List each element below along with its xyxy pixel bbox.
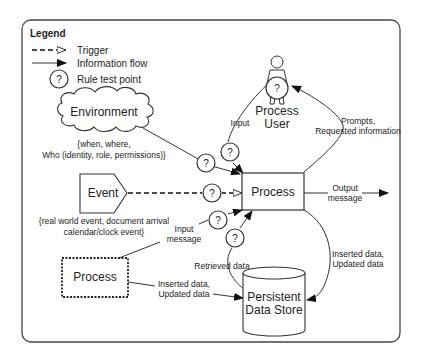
svg-text:?: ?: [215, 215, 221, 226]
process-external-node: Process: [62, 258, 128, 297]
event-note-line1: {real world event, document arrival: [39, 216, 170, 226]
process-main-label: Process: [251, 185, 294, 199]
test-point-user-input[interactable]: ?: [221, 143, 239, 161]
legend-information-flow-label: Information flow: [77, 58, 148, 69]
legend: Legend Trigger Information flow ? Rule t…: [30, 28, 148, 88]
test-point-input-message[interactable]: ?: [209, 211, 227, 229]
user-label-line2: User: [264, 117, 289, 131]
event-note-line2: calendar/clock event}: [64, 227, 144, 237]
svg-text:?: ?: [227, 147, 233, 158]
environment-note-line2: Who (identity, role, permissions)}: [42, 150, 166, 160]
rule-test-point-icon: ?: [50, 70, 68, 88]
svg-text:?: ?: [209, 188, 215, 199]
svg-text:?: ?: [232, 233, 238, 244]
event-label: Event: [88, 186, 119, 200]
svg-text:?: ?: [274, 83, 280, 94]
legend-title: Legend: [30, 28, 66, 39]
prompts-label-line1: Prompts,: [341, 116, 375, 126]
inserted-left-edge-end: [213, 294, 243, 298]
legend-trigger-label: Trigger: [77, 45, 109, 56]
input-message-edge-end: [228, 210, 242, 214]
test-point-trigger[interactable]: ?: [203, 184, 221, 202]
input-message-edge-mid: [199, 220, 208, 224]
input-message-label-line2: message: [167, 234, 202, 244]
output-label-line1: Output: [332, 183, 358, 193]
process-user-node: ? Process User: [255, 56, 298, 131]
svg-text:?: ?: [56, 74, 62, 85]
user-input-edge-end: [233, 163, 243, 173]
inserted-right-label-line1: Inserted data,: [332, 249, 384, 259]
environment-node: Environment {when, where, Who (identity,…: [42, 87, 166, 160]
output-label-line2: message: [328, 193, 363, 203]
process-main-node: Process: [242, 173, 304, 210]
retrieved-label: Retrieved data: [194, 261, 250, 271]
process-external-label: Process: [73, 270, 116, 284]
input-label: Input: [231, 118, 251, 128]
datastore-node: Persistent Data Store: [243, 267, 305, 336]
inserted-left-label-line2: Updated data: [158, 289, 209, 299]
event-node: Event {real world event, document arriva…: [39, 174, 170, 237]
test-point-environment[interactable]: ?: [197, 154, 215, 172]
retrieved-edge-end: [240, 211, 252, 228]
inserted-left-label-line1: Inserted data,: [158, 279, 210, 289]
datastore-label-line2: Data Store: [245, 303, 303, 317]
user-label-line1: Process: [255, 104, 298, 118]
environment-note-line1: {when, where,: [77, 139, 130, 149]
inserted-left-edge: [128, 282, 155, 286]
user-test-point[interactable]: ?: [266, 77, 288, 99]
legend-rule-test-point-label: Rule test point: [77, 74, 141, 85]
environment-edge-end: [212, 166, 240, 174]
prompts-label-line2: Requested information: [315, 126, 401, 136]
inserted-right-label-line2: Updated data: [332, 259, 383, 269]
input-message-edge: [119, 242, 160, 258]
test-point-retrieved[interactable]: ?: [226, 229, 244, 247]
diagram-canvas: Legend Trigger Information flow ? Rule t…: [0, 0, 421, 360]
inserted-right-edge: [304, 210, 330, 300]
svg-text:?: ?: [203, 158, 209, 169]
input-message-label-line1: Input: [175, 224, 195, 234]
environment-label: Environment: [70, 105, 138, 119]
datastore-label-line1: Persistent: [247, 290, 301, 304]
